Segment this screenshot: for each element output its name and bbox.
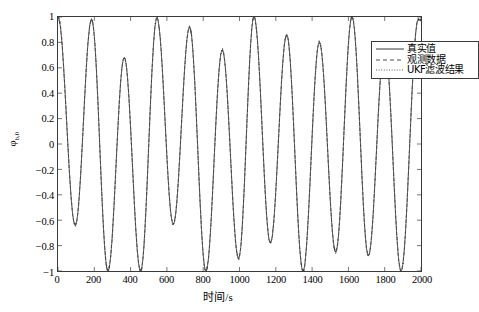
y-tick-label: 0.2 (41, 113, 54, 124)
x-tick-label: 1600 (339, 274, 359, 285)
y-axis-label-subscript: b,0 (13, 132, 21, 141)
x-tick-label: 200 (86, 274, 101, 285)
legend-label-true-value: 真实值 (407, 44, 436, 55)
y-tick-label: 0.6 (41, 62, 54, 73)
y-tick-label: −0.4 (36, 190, 54, 201)
y-axis-label: φb,0 (7, 119, 21, 159)
x-tick-label: 1000 (229, 274, 249, 285)
chart-legend: 真实值 观测数据 UKF滤波结果 (371, 41, 479, 79)
legend-item-ukf-result: UKF滤波结果 (375, 65, 475, 76)
x-tick-label: 400 (122, 274, 137, 285)
x-tick-label: 600 (159, 274, 174, 285)
chart-curves (58, 17, 421, 271)
plot-area: 真实值 观测数据 UKF滤波结果 (57, 16, 422, 272)
x-tick-label: 1200 (266, 274, 286, 285)
x-tick-label: 1800 (375, 274, 395, 285)
y-tick-label: −0.8 (36, 241, 54, 252)
y-tick-label: 1 (49, 11, 54, 22)
y-tick-label: 0.8 (41, 36, 54, 47)
x-axis-label: 时间/s (0, 288, 436, 304)
y-axis-label-base: φ (7, 140, 18, 146)
x-tick-label: 0 (54, 274, 59, 285)
legend-swatch-dotted-icon (375, 65, 405, 75)
y-tick-label: 0 (49, 139, 54, 150)
x-tick-label: 1400 (302, 274, 322, 285)
x-tick-label: 800 (195, 274, 210, 285)
y-tick-label: −0.2 (36, 164, 54, 175)
legend-swatch-dashed-icon (375, 55, 405, 65)
y-tick-label: 0.4 (41, 87, 54, 98)
series-line-true-value (58, 17, 421, 271)
legend-item-true-value: 真实值 (375, 44, 475, 55)
y-tick-label: −1 (43, 267, 54, 278)
legend-swatch-solid-icon (375, 44, 405, 54)
x-tick-label: 2000 (412, 274, 432, 285)
legend-label-ukf-result: UKF滤波结果 (407, 65, 464, 76)
y-tick-label: −0.6 (36, 215, 54, 226)
